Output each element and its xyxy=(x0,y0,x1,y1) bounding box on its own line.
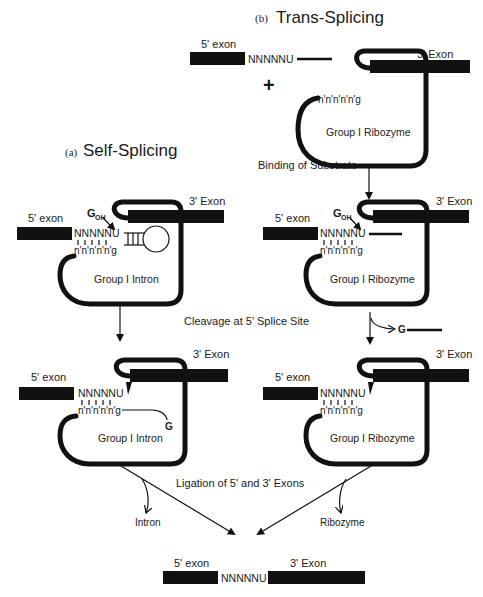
g-tether xyxy=(122,410,167,420)
trans-title-label: Trans-Splicing xyxy=(276,8,384,27)
intron-release-arrow xyxy=(142,479,148,513)
self-postcleavage: 3' Exon 5' exon NNNNNU n'n'n'n'n'g G Gro… xyxy=(19,348,229,464)
ribozyme-label: Group I Ribozyme xyxy=(330,273,415,285)
exon5-label: 5' exon xyxy=(31,371,66,383)
plus-sign: + xyxy=(263,74,275,96)
svg-text:OH: OH xyxy=(341,214,352,221)
self-splicing-title: (a) Self-Splicing xyxy=(65,141,178,160)
exon5-label: 5' exon xyxy=(201,38,236,50)
intron-label: Group I Intron xyxy=(94,273,159,285)
cleavage-step-label: Cleavage at 5' Splice Site xyxy=(184,315,309,327)
released-ribozyme-label: Ribozyme xyxy=(320,517,365,528)
exon3-block xyxy=(268,571,365,584)
exon3-block xyxy=(370,60,470,73)
exon5-block xyxy=(263,387,318,400)
g-oh-label: G OH xyxy=(87,207,106,221)
g-oh-label: G OH xyxy=(333,207,352,221)
substrate-seq: NNNNNU xyxy=(248,53,294,65)
intron-label: Group I Intron xyxy=(98,432,163,444)
released-intron-label: Intron xyxy=(135,517,161,528)
exon3-label: 3' Exon xyxy=(193,348,229,360)
exon5-block xyxy=(17,227,72,240)
trans-substrate: 5' exon NNNNNU + xyxy=(190,38,332,96)
exon3-label: 3' Exon xyxy=(290,557,326,569)
self-title-prefix: (a) xyxy=(65,146,78,159)
product-seq: NNNNNU xyxy=(221,572,267,584)
exon3-block xyxy=(373,210,469,223)
trans-splicing-title: (b) Trans-Splicing xyxy=(255,8,384,27)
guide-seq: n'n'n'n'n'g xyxy=(318,94,361,105)
trans-bound: 3' Exon 5' exon NNNNNU n'n'n'n'n'g G OH … xyxy=(263,195,472,304)
exon3-block xyxy=(373,369,469,382)
released-g-label: G xyxy=(398,324,406,335)
ribozyme-label: Group I Ribozyme xyxy=(330,432,415,444)
stem-loop xyxy=(124,226,169,252)
guide-seq: n'n'n'n'n'g xyxy=(320,245,363,256)
exon3-block xyxy=(130,369,228,382)
exon5-block xyxy=(163,571,218,584)
substrate-seq: NNNNNU xyxy=(320,227,366,239)
exon5-block xyxy=(263,227,318,240)
intron-seq: NNNNNU xyxy=(78,387,124,399)
splice-site-marker xyxy=(126,382,132,395)
self-title-label: Self-Splicing xyxy=(83,141,178,160)
splice-site-marker xyxy=(368,382,374,395)
splicing-diagram: (b) Trans-Splicing 5' exon NNNNNU + 3' E… xyxy=(0,0,483,597)
binding-step-label: Binding of Substrate xyxy=(258,159,357,171)
exon3-label: 3' Exon xyxy=(436,348,472,360)
exon5-block xyxy=(19,387,74,400)
exon3-label: 3' Exon xyxy=(436,195,472,207)
guide-seq: n'n'n'n'n'g xyxy=(74,245,117,256)
substrate-seq: NNNNNU xyxy=(320,387,366,399)
guide-seq: n'n'n'n'n'g xyxy=(320,405,363,416)
exon5-block xyxy=(190,52,245,65)
trans-title-prefix: (b) xyxy=(255,12,268,25)
guide-seq: n'n'n'n'n'g xyxy=(78,405,121,416)
exon3-block xyxy=(128,210,224,223)
trans-postcleavage: 3' Exon 5' exon NNNNNU n'n'n'n'n'g Group… xyxy=(263,348,472,464)
g-release-arrow xyxy=(371,318,395,329)
ligated-product: 5' exon NNNNNU 3' Exon xyxy=(163,557,365,584)
attached-g-label: G xyxy=(165,421,173,432)
self-precleavage: 3' Exon 5' exon NNNNNU n'n'n'n'n'g G OH … xyxy=(17,195,225,304)
exon5-label: 5' exon xyxy=(28,212,63,224)
ligation-step-label: Ligation of 5' and 3' Exons xyxy=(176,477,305,489)
intron-seq: NNNNNU xyxy=(74,227,120,239)
exon3-label: 3' Exon xyxy=(189,195,225,207)
exon5-label: 5' exon xyxy=(275,371,310,383)
exon5-label: 5' exon xyxy=(275,212,310,224)
exon5-label: 5' exon xyxy=(174,557,209,569)
trans-ribozyme-top: 3' Exon n'n'n'n'n'g Group I Ribozyme xyxy=(298,48,470,166)
svg-text:OH: OH xyxy=(95,214,106,221)
ribozyme-label: Group I Ribozyme xyxy=(326,126,411,138)
